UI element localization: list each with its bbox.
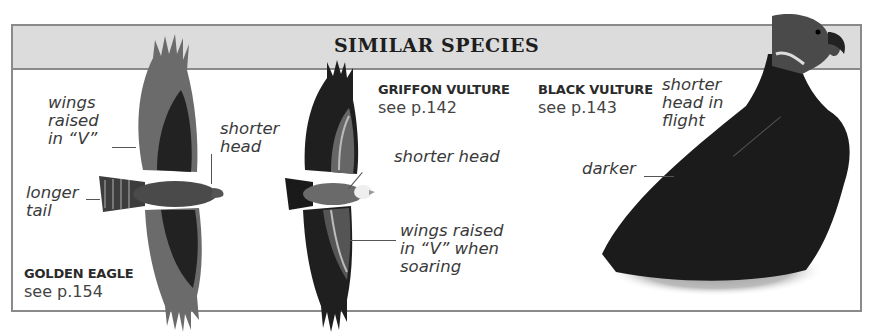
annotation-black-vulture-head: shorter head in flight bbox=[662, 76, 723, 130]
annotation-golden-eagle-wings: wings raised in “V” bbox=[48, 94, 99, 148]
species-name-golden-eagle: GOLDEN EAGLE bbox=[24, 266, 133, 281]
page-ref-golden-eagle[interactable]: see p.154 bbox=[24, 282, 103, 301]
leader-line bbox=[112, 147, 136, 148]
leader-line bbox=[86, 199, 100, 200]
species-name-black-vulture: BLACK VULTURE bbox=[538, 82, 653, 97]
leader-line bbox=[644, 176, 674, 177]
species-name-griffon-vulture: GRIFFON VULTURE bbox=[378, 82, 510, 97]
annotation-black-vulture-darker: darker bbox=[582, 160, 636, 178]
page-ref-black-vulture[interactable]: see p.143 bbox=[538, 98, 617, 117]
annotation-griffon-head: shorter head bbox=[394, 148, 500, 166]
leader-line bbox=[211, 154, 212, 184]
annotation-griffon-wings: wings raised in “V” when soaring bbox=[400, 222, 504, 276]
annotation-golden-eagle-tail: longer tail bbox=[26, 184, 79, 220]
golden-eagle-illustration bbox=[95, 30, 235, 334]
page-ref-griffon-vulture[interactable]: see p.142 bbox=[378, 98, 457, 117]
griffon-vulture-illustration bbox=[283, 60, 383, 334]
annotation-golden-eagle-head: shorter head bbox=[220, 120, 279, 156]
black-vulture-photo bbox=[596, 14, 866, 304]
leader-line bbox=[340, 240, 396, 241]
